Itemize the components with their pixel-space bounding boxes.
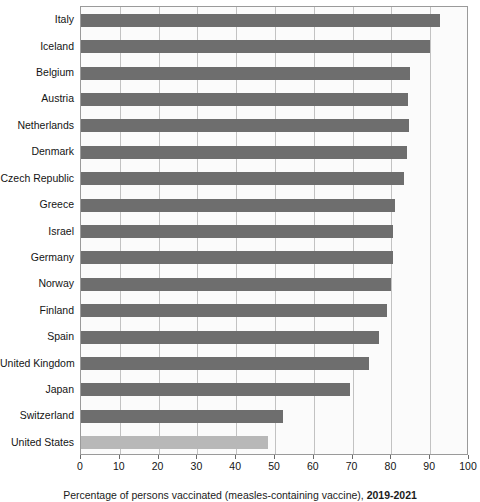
bar-czech-republic [81, 172, 404, 185]
bar-row [81, 11, 467, 29]
category-label-germany: Germany [0, 251, 74, 263]
category-label-denmark: Denmark [0, 145, 74, 157]
tick-label-90: 90 [423, 460, 435, 472]
tick-label-50: 50 [268, 460, 280, 472]
tick-mark-90 [429, 455, 430, 459]
category-label-israel: Israel [0, 225, 74, 237]
tick-label-20: 20 [152, 460, 164, 472]
tick-mark-60 [313, 455, 314, 459]
tick-mark-0 [80, 455, 81, 459]
tick-mark-50 [274, 455, 275, 459]
value-axis: 0102030405060708090100 [80, 455, 468, 477]
tick-mark-80 [390, 455, 391, 459]
bar-switzerland [81, 410, 283, 423]
bar-austria [81, 93, 408, 106]
tick-mark-20 [158, 455, 159, 459]
bar-row [81, 302, 467, 320]
category-axis-labels: ItalyIcelandBelgiumAustriaNetherlandsDen… [0, 6, 74, 455]
bar-row [81, 117, 467, 135]
category-label-belgium: Belgium [0, 66, 74, 78]
bar-denmark [81, 146, 407, 159]
bar-israel [81, 225, 393, 238]
bar-united-states [81, 436, 268, 449]
plot-area [80, 6, 468, 455]
bar-japan [81, 383, 350, 396]
tick-mark-10 [119, 455, 120, 459]
category-label-united-states: United States [0, 436, 74, 448]
chart-caption: Percentage of persons vaccinated (measle… [0, 489, 480, 502]
tick-mark-30 [196, 455, 197, 459]
bar-row [81, 249, 467, 267]
category-label-united-kingdom: United Kingdom [0, 357, 74, 369]
tick-label-40: 40 [229, 460, 241, 472]
category-label-italy: Italy [0, 13, 74, 25]
bar-row [81, 196, 467, 214]
caption-years: 2019-2021 [367, 489, 417, 501]
category-label-switzerland: Switzerland [0, 409, 74, 421]
bar-finland [81, 304, 387, 317]
tick-mark-70 [352, 455, 353, 459]
tick-label-0: 0 [77, 460, 83, 472]
category-label-norway: Norway [0, 277, 74, 289]
bar-row [81, 90, 467, 108]
bar-row [81, 434, 467, 452]
bar-germany [81, 251, 393, 264]
bar-norway [81, 278, 391, 291]
bar-belgium [81, 67, 410, 80]
bar-row [81, 223, 467, 241]
bar-row [81, 143, 467, 161]
tick-label-60: 60 [307, 460, 319, 472]
bar-greece [81, 199, 395, 212]
bar-italy [81, 14, 440, 27]
category-label-finland: Finland [0, 304, 74, 316]
bar-netherlands [81, 119, 409, 132]
bar-chart: ItalyIcelandBelgiumAustriaNetherlandsDen… [0, 0, 480, 502]
bar-row [81, 170, 467, 188]
tick-label-100: 100 [459, 460, 477, 472]
tick-label-30: 30 [191, 460, 203, 472]
category-label-czech-republic: Czech Republic [0, 172, 74, 184]
category-label-spain: Spain [0, 330, 74, 342]
tick-label-70: 70 [346, 460, 358, 472]
bar-spain [81, 331, 379, 344]
tick-mark-40 [235, 455, 236, 459]
bar-row [81, 407, 467, 425]
category-label-japan: Japan [0, 383, 74, 395]
category-label-netherlands: Netherlands [0, 119, 74, 131]
bar-row [81, 355, 467, 373]
category-label-austria: Austria [0, 92, 74, 104]
category-label-iceland: Iceland [0, 40, 74, 52]
tick-mark-100 [468, 455, 469, 459]
bar-row [81, 381, 467, 399]
category-label-greece: Greece [0, 198, 74, 210]
tick-label-80: 80 [385, 460, 397, 472]
bar-row [81, 275, 467, 293]
bar-row [81, 38, 467, 56]
bar-row [81, 328, 467, 346]
tick-label-10: 10 [113, 460, 125, 472]
caption-text: Percentage of persons vaccinated (measle… [63, 489, 367, 501]
bar-row [81, 64, 467, 82]
bar-united-kingdom [81, 357, 369, 370]
bar-iceland [81, 40, 430, 53]
